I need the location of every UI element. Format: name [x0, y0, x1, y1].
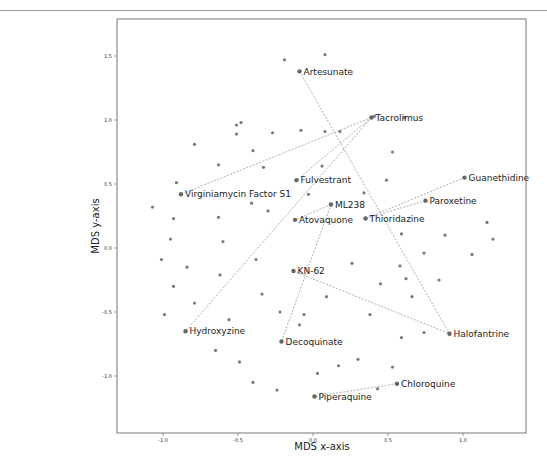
- connection-line: [300, 71, 450, 333]
- data-point: [169, 237, 172, 240]
- labeled-points: ArtesunateTacrolimusVirginiamycin Factor…: [179, 67, 530, 402]
- labeled-point: Tacrolimus: [369, 113, 423, 123]
- data-point: [299, 129, 302, 132]
- labeled-point: Hydroxyzine: [183, 326, 245, 336]
- point-label: Artesunate: [304, 67, 354, 77]
- y-tick-label: -1.0: [102, 373, 112, 379]
- data-point: [172, 217, 175, 220]
- data-point: [470, 253, 473, 256]
- data-point: [320, 164, 323, 167]
- data-point: [214, 349, 217, 352]
- y-tick-label: 0.0: [104, 245, 112, 251]
- data-point: [238, 360, 241, 363]
- data-point: [316, 372, 319, 375]
- data-point: [254, 258, 257, 261]
- data-point: [271, 131, 274, 134]
- labeled-point: Guanethidine: [462, 173, 529, 183]
- data-point: [260, 292, 263, 295]
- data-point: [275, 388, 278, 391]
- labeled-point: Paroxetine: [423, 196, 477, 206]
- data-point: [422, 331, 425, 334]
- point-label: Virginiamycin Factor S1: [185, 189, 291, 199]
- data-point: [400, 232, 403, 235]
- labeled-point: Piperaquine: [312, 392, 372, 402]
- x-axis-label: MDS x-axis: [294, 441, 349, 452]
- point-label: Fulvestrant: [301, 175, 352, 185]
- x-tick-label: -1.0: [158, 437, 168, 443]
- data-point: [185, 266, 188, 269]
- point-label: Decoquinate: [286, 337, 344, 347]
- data-point: [193, 301, 196, 304]
- data-point: [251, 381, 254, 384]
- data-point: [398, 264, 401, 267]
- connection-line: [297, 117, 372, 180]
- data-point-marker: [183, 329, 187, 333]
- data-point: [217, 216, 220, 219]
- data-point: [368, 313, 371, 316]
- data-point: [298, 323, 301, 326]
- data-point: [376, 387, 379, 390]
- data-point: [350, 262, 353, 265]
- data-point: [307, 193, 310, 196]
- data-point: [278, 310, 281, 313]
- data-point: [362, 191, 365, 194]
- data-point: [172, 285, 175, 288]
- data-point-marker: [329, 202, 333, 206]
- data-point: [227, 318, 230, 321]
- data-point: [404, 277, 407, 280]
- labeled-point: Chloroquine: [395, 379, 456, 389]
- data-point: [218, 273, 221, 276]
- data-point-marker: [447, 332, 451, 336]
- point-label: Piperaquine: [319, 392, 373, 402]
- point-label: Paroxetine: [430, 196, 478, 206]
- point-label: Chloroquine: [401, 379, 456, 389]
- data-point-marker: [395, 381, 399, 385]
- data-point: [151, 205, 154, 208]
- data-point: [338, 130, 341, 133]
- data-point: [235, 132, 238, 135]
- y-tick-label: 0.5: [104, 181, 112, 187]
- x-tick-label: -0.5: [233, 437, 243, 443]
- data-point-marker: [363, 216, 367, 220]
- data-point: [443, 234, 446, 237]
- data-point: [379, 282, 382, 285]
- x-tick-label: 0.5: [384, 437, 392, 443]
- y-tick-label: -0.5: [102, 309, 112, 315]
- labeled-point: Atovaquone: [293, 215, 354, 225]
- data-point: [325, 295, 328, 298]
- point-label: KN-62: [298, 266, 325, 276]
- data-point: [410, 295, 413, 298]
- y-tick-label: 1.5: [104, 53, 112, 59]
- y-axis-label: MDS y-axis: [90, 198, 101, 253]
- data-point: [356, 358, 359, 361]
- data-point: [163, 313, 166, 316]
- data-point: [302, 313, 305, 316]
- data-point: [221, 240, 224, 243]
- data-point: [422, 252, 425, 255]
- data-point-marker: [369, 115, 373, 119]
- data-point: [337, 364, 340, 367]
- x-tick-label: 1.0: [459, 437, 467, 443]
- data-point: [283, 58, 286, 61]
- data-point-marker: [293, 218, 297, 222]
- data-point: [175, 181, 178, 184]
- data-point: [323, 53, 326, 56]
- data-point-marker: [179, 192, 183, 196]
- labeled-point: Halofantrine: [447, 329, 509, 339]
- labeled-point: KN-62: [291, 266, 325, 276]
- data-point-marker: [312, 394, 316, 398]
- data-point: [251, 149, 254, 152]
- data-point: [485, 221, 488, 224]
- data-point-marker: [279, 339, 283, 343]
- y-tick-label: 1.0: [104, 117, 112, 123]
- mds-scatter-chart: ArtesunateTacrolimusVirginiamycin Factor…: [0, 0, 547, 469]
- data-point: [323, 130, 326, 133]
- axes-border: [117, 19, 526, 433]
- y-axis-ticks: -1.0-0.50.00.51.01.5: [102, 53, 117, 379]
- data-point: [385, 179, 388, 182]
- data-point-marker: [291, 269, 295, 273]
- labeled-point: Fulvestrant: [294, 175, 351, 185]
- data-point: [391, 365, 394, 368]
- data-point: [262, 166, 265, 169]
- data-point: [160, 258, 163, 261]
